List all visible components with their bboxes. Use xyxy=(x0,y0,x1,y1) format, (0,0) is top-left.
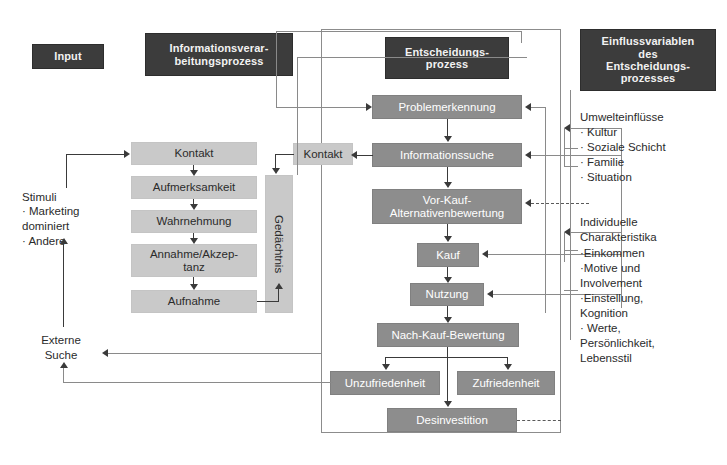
connector-infosuche-kontaktmem xyxy=(357,155,373,156)
connector-annahme-aufnahme xyxy=(193,277,194,284)
rail-memory-v xyxy=(297,57,298,175)
tick-kultur xyxy=(564,148,578,149)
arrowhead-kauf xyxy=(444,236,452,242)
arrowhead-annahme xyxy=(190,238,198,244)
step-unzufriedenheit: Unzufriedenheit xyxy=(330,371,440,395)
rail-top-right-v xyxy=(521,31,522,43)
connector-kauf-nutzung xyxy=(447,267,448,277)
arrowhead-kontakt-left xyxy=(124,150,130,158)
rail-right-inner-v xyxy=(545,107,546,313)
arrowhead-vorkauf-right xyxy=(525,199,531,207)
step-zufriedenheit: Zufriedenheit xyxy=(457,371,555,395)
individual-items: ·Einkommen ·Motive und Involvement ·Eins… xyxy=(580,246,720,366)
arrowhead-nutzung-right xyxy=(487,290,493,298)
arrowhead-problemerkennung-left xyxy=(366,103,372,111)
arrowhead-zufriedenheit xyxy=(504,364,512,370)
rail-individuelle-v xyxy=(564,232,565,262)
arrowhead-nutzung xyxy=(444,277,452,283)
rail-top-left-v xyxy=(276,31,277,107)
arrowhead-externe-suche xyxy=(102,349,108,357)
environmental-title: Umwelteinflüsse xyxy=(580,110,720,125)
arrowhead-informationssuche xyxy=(444,136,452,142)
connector-kontakt-memory-v xyxy=(275,154,276,169)
tick-soziale xyxy=(564,166,578,167)
step-desinvestition: Desinvestition xyxy=(387,408,517,432)
connector-unzufrieden-externe-h xyxy=(63,382,331,383)
connector-info-vorkauf xyxy=(447,167,448,182)
connector-nachkauf-fan-h xyxy=(385,357,507,358)
step-informationssuche: Informationssuche xyxy=(372,143,522,167)
environmental-items: · Kultur · Soziale Schicht · Familie · S… xyxy=(580,125,722,185)
arrowhead-memory-bottom xyxy=(275,283,283,289)
arrowhead-infosuche-right xyxy=(525,151,531,159)
connector-aufnahme-memory-h xyxy=(257,301,279,302)
connector-stimuli-kontakt-h xyxy=(66,154,124,155)
step-nach-kauf-bewertung: Nach-Kauf-Bewertung xyxy=(377,323,519,347)
arrowhead-desinvestition xyxy=(444,401,452,407)
step-kauf: Kauf xyxy=(417,243,479,267)
rail-desinvest-dashed xyxy=(517,420,561,421)
connector-nutzung-nachkauf xyxy=(447,306,448,317)
arrowhead-wahrnehmung xyxy=(190,204,198,210)
connector-info-externe-h xyxy=(108,353,322,354)
rail-vorkauf-dashed xyxy=(531,203,589,204)
connector-kontakt-memory-h xyxy=(275,154,294,155)
tick-einstellung xyxy=(564,290,578,291)
connector-vorkauf-kauf xyxy=(447,224,448,236)
arrowhead-nachkauf xyxy=(444,317,452,323)
step-wahrnehmung: Wahrnehmung xyxy=(131,210,257,233)
connector-aufnahme-memory-v xyxy=(278,288,279,302)
step-aufmerksamkeit: Aufmerksamkeit xyxy=(131,176,257,199)
arrowhead-problem-right xyxy=(525,103,531,111)
arrowhead-memory-top xyxy=(272,168,280,174)
rail-umwelt-v xyxy=(564,128,565,166)
connector-unzufrieden-externe-v xyxy=(63,367,64,383)
stimuli-items: · Marketing dominiert · Andere xyxy=(22,204,122,249)
connector-problem-info xyxy=(447,119,448,136)
header-influence-variables: Einflussvariablen des Entscheidungs- pro… xyxy=(580,29,716,91)
arrowhead-kauf-right xyxy=(482,250,488,258)
connector-stimuli-kontakt-v xyxy=(66,154,67,188)
step-kontakt: Kontakt xyxy=(131,142,257,165)
rail-unzufrieden-out xyxy=(321,382,333,383)
individual-title: Individuelle Charakteristika xyxy=(580,215,720,245)
arrowhead-unzufriedenheit xyxy=(382,364,390,370)
arrowhead-vorkauf xyxy=(444,182,452,188)
diagram-canvas: Input Informationsverar- beitungsprozess… xyxy=(0,0,727,465)
external-search-label: Externe Suche xyxy=(22,333,100,363)
step-annahme-akzeptanz: Annahme/Akzep- tanz xyxy=(131,244,257,277)
step-vor-kauf-alternativenbewertung: Vor-Kauf- Alternativenbewertung xyxy=(372,189,522,224)
rail-top-h xyxy=(276,31,522,32)
step-problemerkennung: Problemerkennung xyxy=(372,95,522,119)
arrowhead-kontaktmem-left xyxy=(351,151,357,159)
rail-problem-h xyxy=(531,107,546,108)
arrowhead-externe-suche-up xyxy=(60,362,68,368)
memory-box: Gedächtnis xyxy=(265,175,293,313)
arrowhead-aufmerksamkeit xyxy=(190,170,198,176)
rail-far-right-v xyxy=(570,90,571,340)
header-input: Input xyxy=(32,44,104,69)
memory-kontakt-box: Kontakt xyxy=(293,143,353,165)
header-information-processing: Informationsverar- beitungsprozess xyxy=(145,33,293,76)
connector-nachkauf-fan-center xyxy=(447,347,448,401)
rail-memory-top-h xyxy=(297,57,527,58)
stimuli-title: Stimuli xyxy=(22,190,118,205)
connector-externe-stimuli xyxy=(63,243,64,327)
arrowhead-aufnahme xyxy=(190,284,198,290)
step-aufnahme: Aufnahme xyxy=(131,290,257,313)
step-nutzung: Nutzung xyxy=(410,283,484,306)
arrowhead-stimuli-up xyxy=(60,238,68,244)
rail-top-to-problem-h xyxy=(276,107,366,108)
tick-einkommen xyxy=(564,250,578,251)
